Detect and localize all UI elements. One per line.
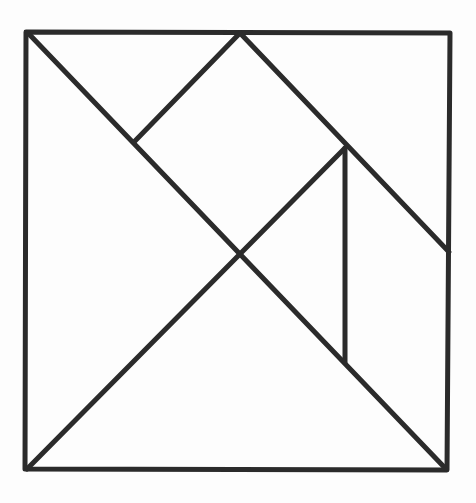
line-top-mid-to-square-left — [134, 33, 240, 142]
piece-large-triangle-bottom — [27, 253, 446, 469]
tangram-lines — [27, 33, 449, 469]
piece-small-triangle-middle-right — [240, 148, 345, 362]
piece-square — [134, 33, 345, 253]
tangram-diagram — [0, 0, 476, 503]
piece-large-triangle-left — [27, 33, 240, 469]
piece-small-triangle-top-left — [28, 33, 240, 142]
